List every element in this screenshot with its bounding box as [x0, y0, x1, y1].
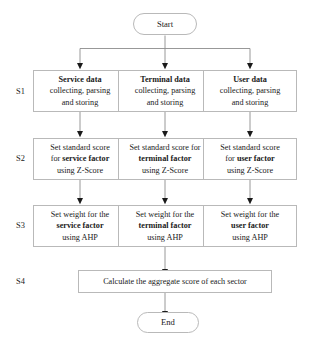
s2-node-user: Set standard score for user factor using…: [203, 138, 297, 180]
s3-user-line3: using AHP: [232, 232, 268, 244]
s1-service-line2: collecting, parsing: [50, 85, 110, 97]
s3-service-line3: using AHP: [62, 232, 98, 244]
s3-user-line2: user factor: [231, 220, 269, 232]
stage-label-s1: S1: [16, 87, 25, 96]
s2-service-line2: for service factor: [51, 153, 110, 165]
s2-service-line3: using Z-Score: [57, 165, 103, 177]
stage-label-s2: S2: [16, 154, 25, 163]
end-node-label: End: [161, 316, 175, 328]
s2-terminal-line2-emphasis: terminal factor: [139, 153, 192, 165]
s1-terminal-line3: and storing: [147, 97, 184, 109]
s3-terminal-line3: using AHP: [147, 232, 183, 244]
s3-service-line2: service factor: [56, 220, 103, 232]
s3-user-line1: Set weight for the: [221, 209, 279, 221]
s1-node-user: User data collecting, parsing and storin…: [203, 70, 297, 112]
s1-service-line1: Service data: [59, 74, 102, 86]
s2-service-line1: Set standard score: [50, 142, 110, 154]
s2-user-line2-prefix: for: [225, 154, 237, 163]
s3-service-line1: Set weight for the: [51, 209, 109, 221]
s2-user-line2: for user factor: [225, 153, 274, 165]
s2-service-line2-prefix: for: [51, 154, 63, 163]
s2-user-line1: Set standard score: [220, 142, 280, 154]
s2-user-line2-emphasis: user factor: [237, 154, 275, 163]
s1-node-terminal: Terminal data collecting, parsing and st…: [118, 70, 212, 112]
s2-terminal-line3: using Z-Score: [142, 165, 188, 177]
s1-terminal-line1: Terminal data: [140, 74, 190, 86]
s3-node-service: Set weight for the service factor using …: [33, 205, 127, 247]
s2-user-line3: using Z-Score: [227, 165, 273, 177]
s2-terminal-line1: Set standard score for: [129, 142, 200, 154]
s1-service-line3: and storing: [62, 97, 99, 109]
s3-terminal-line2: terminal factor: [139, 220, 192, 232]
flowchart-diagram: Start S1 S2 S3 S4 Service data collectin…: [0, 0, 330, 345]
start-node-label: Start: [157, 18, 173, 30]
s1-node-service: Service data collecting, parsing and sto…: [33, 70, 127, 112]
start-node: Start: [133, 13, 197, 35]
s1-user-line2: collecting, parsing: [220, 85, 280, 97]
stage-label-s3: S3: [16, 221, 25, 230]
s3-node-user: Set weight for the user factor using AHP: [203, 205, 297, 247]
s2-node-terminal: Set standard score for terminal factor u…: [118, 138, 212, 180]
s3-node-terminal: Set weight for the terminal factor using…: [118, 205, 212, 247]
s1-user-line1: User data: [233, 74, 267, 86]
s4-aggregate-label: Calculate the aggregate score of each se…: [103, 276, 247, 288]
s4-node-aggregate: Calculate the aggregate score of each se…: [78, 270, 272, 293]
end-node: End: [137, 312, 199, 333]
s2-node-service: Set standard score for service factor us…: [33, 138, 127, 180]
s1-user-line3: and storing: [232, 97, 269, 109]
stage-label-s4: S4: [16, 277, 25, 286]
s1-terminal-line2: collecting, parsing: [135, 85, 195, 97]
s3-terminal-line1: Set weight for the: [136, 209, 194, 221]
s2-service-line2-emphasis: service factor: [62, 154, 109, 163]
